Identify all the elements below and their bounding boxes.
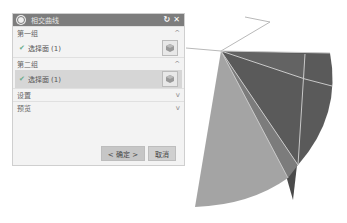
construction-line xyxy=(186,17,270,51)
section-label: 预览 xyxy=(17,103,176,113)
select-face-label: 选择面 (1) xyxy=(28,43,162,53)
intersection-curve-dialog: 相交曲线 ↻ ✕ 第一组 ^ ✔ 选择面 (1) 第二组 ^ ✔ 选择面 (1)… xyxy=(12,13,185,166)
section-label: 设置 xyxy=(17,90,176,100)
section-label: 第二组 xyxy=(17,59,174,69)
gear-icon[interactable] xyxy=(17,16,25,24)
section-preview[interactable]: 预览 v xyxy=(13,101,184,114)
section-settings[interactable]: 设置 v xyxy=(13,88,184,101)
section-second-group[interactable]: 第二组 ^ xyxy=(13,57,184,70)
dialog-title: 相交曲线 xyxy=(31,15,161,25)
face-selector-button[interactable] xyxy=(162,71,178,87)
section-label: 第一组 xyxy=(17,28,174,38)
cube-icon xyxy=(165,74,175,84)
select-face-row-2[interactable]: ✔ 选择面 (1) xyxy=(15,70,182,88)
cube-icon xyxy=(165,43,175,53)
dialog-footer: < 确定 > 取消 xyxy=(101,146,176,161)
check-icon: ✔ xyxy=(19,75,25,83)
close-icon[interactable]: ✕ xyxy=(173,15,180,25)
cancel-button[interactable]: 取消 xyxy=(148,146,176,161)
select-face-label: 选择面 (1) xyxy=(28,74,162,84)
chevron-up-icon[interactable]: ^ xyxy=(174,29,180,37)
section-first-group[interactable]: 第一组 ^ xyxy=(13,26,184,39)
chevron-up-icon[interactable]: ^ xyxy=(174,60,180,68)
check-icon: ✔ xyxy=(19,44,25,52)
ok-button[interactable]: < 确定 > xyxy=(101,146,145,161)
chevron-down-icon[interactable]: v xyxy=(176,104,180,112)
chevron-down-icon[interactable]: v xyxy=(176,91,180,99)
dialog-titlebar[interactable]: 相交曲线 ↻ ✕ xyxy=(13,14,184,26)
reset-icon[interactable]: ↻ xyxy=(164,15,171,25)
face-selector-button[interactable] xyxy=(162,40,178,56)
select-face-row-1[interactable]: ✔ 选择面 (1) xyxy=(15,39,182,57)
